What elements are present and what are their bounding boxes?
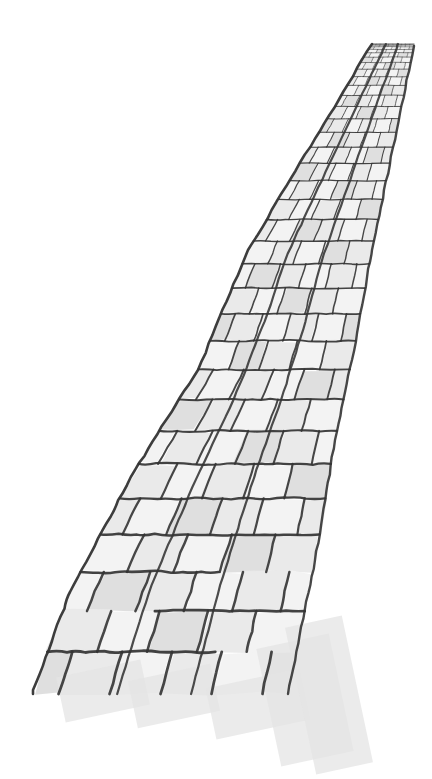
path-illustration xyxy=(0,0,432,779)
brick-path-scene: Receding Brick Path A grey brick-paved p… xyxy=(0,0,432,779)
ink-stroke xyxy=(155,610,305,611)
